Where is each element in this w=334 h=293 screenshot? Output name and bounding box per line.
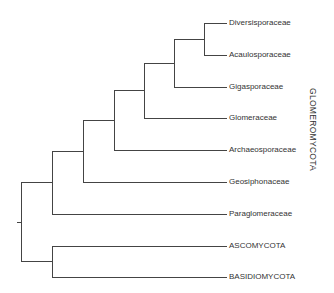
leaf-label-ascomycota: ASCOMYCOTA: [229, 241, 285, 251]
leaf-label-archaeosporaceae: Archaeosporaceae: [229, 145, 296, 155]
leaf-label-glomeraceae: Glomeraceae: [229, 113, 277, 123]
leaf-label-acaulosporaceae: Acaulosporaceae: [229, 50, 291, 60]
group-label-glomeromycota: GLOMEROMYCOTA: [308, 88, 318, 171]
leaf-label-paraglomeraceae: Paraglomeraceae: [229, 209, 292, 219]
leaf-label-basidiomycota: BASIDIOMYCOTA: [229, 272, 295, 282]
leaf-label-diversisporaceae: Diversisporaceae: [229, 18, 291, 28]
leaf-label-geosiphonaceae: Geosiphonaceae: [229, 177, 290, 187]
leaf-label-gigasporaceae: Gigasporaceae: [229, 82, 283, 92]
